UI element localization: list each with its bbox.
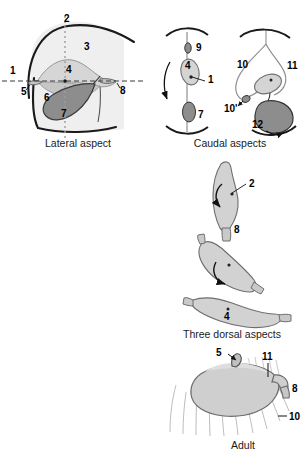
panel-caudal-aspects: 9 4 1 7 bbox=[164, 28, 298, 149]
label-caudal-10-prime: 10' bbox=[224, 103, 238, 114]
label-lateral-8: 8 bbox=[120, 85, 126, 96]
label-caudal-1: 1 bbox=[208, 74, 214, 85]
cardia-tube-b bbox=[198, 234, 205, 244]
organ-12-stalk bbox=[268, 93, 270, 101]
embryology-figure: 2 3 1 4 5 8 6 7 Lateral aspect bbox=[0, 0, 306, 457]
label-caudal-7: 7 bbox=[198, 109, 204, 120]
label-lateral-1: 1 bbox=[10, 65, 16, 76]
caudal-left: 9 4 1 7 bbox=[164, 28, 214, 133]
caudal-right: 10 11 10' 12 bbox=[224, 30, 298, 135]
caption-three-dorsal-aspects: Three dorsal aspects bbox=[183, 328, 281, 340]
adult-duodenum-tip bbox=[280, 386, 289, 398]
axis-dot-b bbox=[227, 263, 230, 266]
dorsal-stage-c: 4 bbox=[183, 298, 291, 328]
label-lateral-3: 3 bbox=[84, 41, 90, 52]
label-lateral-6: 6 bbox=[44, 92, 50, 103]
label-caudal-4: 4 bbox=[185, 60, 191, 71]
label-dorsal-2: 2 bbox=[249, 178, 255, 189]
label-adult-5: 5 bbox=[216, 347, 222, 358]
label-lateral-7: 7 bbox=[61, 108, 67, 119]
label-lateral-4: 4 bbox=[66, 64, 72, 75]
pylorus-tube-c bbox=[279, 314, 291, 322]
axis-center-dot bbox=[63, 79, 67, 83]
ventral-organ-7 bbox=[183, 102, 196, 122]
label-dorsal-8: 8 bbox=[234, 224, 240, 235]
caudal-right-top-arc bbox=[240, 30, 290, 38]
caption-caudal-aspects: Caudal aspects bbox=[194, 137, 266, 149]
dorsal-bud-9 bbox=[185, 43, 191, 53]
label-lateral-2: 2 bbox=[64, 13, 70, 24]
panel-adult: 5 11 8 10 Adult bbox=[170, 347, 301, 451]
dorsal-stage-a: 2 8 bbox=[213, 162, 255, 241]
label-adult-11: 11 bbox=[262, 351, 273, 362]
figure-canvas: 2 3 1 4 5 8 6 7 Lateral aspect bbox=[0, 0, 306, 457]
cardia-tube-c bbox=[183, 298, 193, 306]
caudal-right-center-dot bbox=[270, 79, 273, 82]
pylorus-tube-b bbox=[251, 282, 264, 294]
label-dorsal-4: 4 bbox=[224, 311, 230, 322]
label-caudal-12: 12 bbox=[252, 119, 264, 130]
label-adult-8: 8 bbox=[292, 383, 298, 394]
label-caudal-11: 11 bbox=[287, 60, 298, 71]
leader-10-prime bbox=[238, 101, 243, 106]
panel-three-dorsal-aspects: 2 8 4 Three dorsal aspects bbox=[183, 162, 291, 340]
stomach-shape-a bbox=[213, 162, 238, 231]
stomach-shape-b bbox=[199, 242, 256, 292]
rotation-arrow-left bbox=[164, 62, 170, 99]
stomach-oval-rotated bbox=[252, 70, 285, 97]
caption-lateral-aspect: Lateral aspect bbox=[45, 137, 111, 149]
pylorus-tube-a bbox=[222, 228, 231, 241]
stomach-shape-c bbox=[191, 298, 281, 328]
label-lateral-5: 5 bbox=[21, 86, 27, 97]
label-adult-10: 10 bbox=[289, 411, 301, 422]
panel-lateral-aspect: 2 3 1 4 5 8 6 7 Lateral aspect bbox=[2, 13, 143, 149]
caption-adult: Adult bbox=[231, 439, 255, 451]
dorsal-stage-b bbox=[198, 234, 264, 294]
label-caudal-10: 10 bbox=[237, 59, 249, 70]
label-caudal-9: 9 bbox=[196, 42, 202, 53]
